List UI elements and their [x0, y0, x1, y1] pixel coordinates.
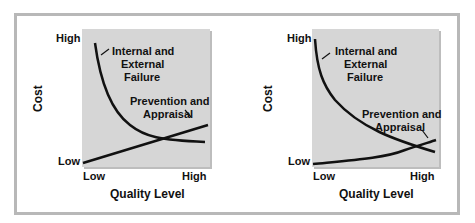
failure-label-2: External — [344, 58, 387, 70]
prevention-label-2: Appraisal — [375, 121, 425, 133]
x-axis-title: Quality Level — [339, 187, 414, 201]
y-high-label: High — [56, 32, 81, 44]
chart-right: Internal and External Failure Prevention… — [235, 0, 475, 223]
prevention-label-1: Prevention and — [362, 108, 441, 120]
failure-label-3: Failure — [124, 71, 160, 83]
y-low-label: Low — [288, 155, 310, 167]
x-axis-title: Quality Level — [110, 187, 185, 201]
x-low-label: Low — [313, 170, 335, 182]
prevention-label-2: Appraisal — [143, 108, 193, 120]
failure-label-2: External — [121, 58, 164, 70]
y-axis-title: Cost — [261, 85, 275, 112]
failure-label-3: Failure — [347, 71, 383, 83]
y-axis-title: Cost — [31, 85, 45, 112]
prevention-label-1: Prevention and — [130, 95, 209, 107]
x-low-label: Low — [83, 170, 105, 182]
failure-label-1: Internal and — [335, 45, 397, 57]
y-low-label: Low — [58, 155, 80, 167]
failure-label-1: Internal and — [112, 45, 174, 57]
x-high-label: High — [182, 170, 207, 182]
chart-left: Internal and External Failure Prevention… — [0, 0, 237, 223]
x-high-label: High — [410, 170, 435, 182]
y-high-label: High — [287, 32, 312, 44]
